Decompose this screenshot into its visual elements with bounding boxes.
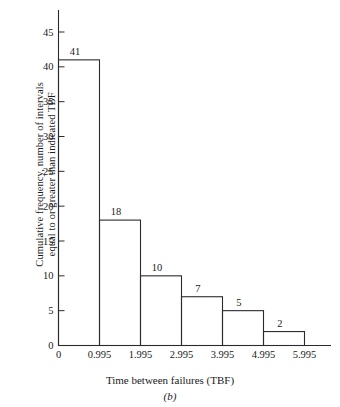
x-axis-tick-labels: 00.9951.9952.9953.9954.9955.995 (56, 349, 316, 360)
histogram-bar (223, 311, 264, 346)
y-axis-tick-label: 0 (48, 340, 53, 351)
bar-value-label: 7 (195, 283, 200, 294)
bar-value-label: 2 (277, 318, 282, 329)
bar-value-label: 18 (111, 206, 122, 217)
x-axis-tick-label: 5.995 (293, 349, 317, 360)
x-axis-tick-label: 1.995 (129, 349, 153, 360)
y-axis-title: Cumulative frequency, number of interval… (34, 24, 59, 324)
bar-value-labels: 411810752 (70, 46, 283, 329)
y-axis-ticks (59, 32, 65, 346)
histogram-bar (182, 297, 223, 346)
bars-group (59, 60, 305, 346)
x-axis-tick-label: 2.995 (170, 349, 194, 360)
x-axis-ticks (59, 340, 305, 346)
bar-value-label: 5 (236, 297, 241, 308)
y-axis-title-line-1: Cumulative frequency, number of interval… (34, 24, 46, 324)
x-axis-tick-label: 0 (56, 349, 61, 360)
cumulative-frequency-histogram: 00.9951.9952.9953.9954.9955.995 05101520… (0, 0, 340, 407)
bar-value-label: 41 (70, 46, 81, 57)
histogram-bar (59, 60, 100, 346)
histogram-bar (141, 276, 182, 346)
x-axis-tick-label: 4.995 (252, 349, 276, 360)
x-axis-title: Time between failures (TBF) (0, 374, 340, 386)
bar-value-label: 10 (152, 262, 163, 273)
x-axis-tick-label: 3.995 (211, 349, 235, 360)
x-axis-tick-label: 0.995 (88, 349, 112, 360)
histogram-bar (100, 220, 141, 345)
y-axis-title-line-2: equal to or greater than indicated TBF (46, 24, 58, 324)
figure-caption: (b) (0, 390, 340, 402)
histogram-bar (264, 332, 305, 346)
